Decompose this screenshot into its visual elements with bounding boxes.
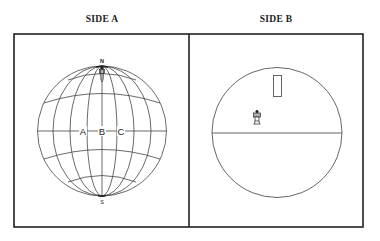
point-b-label: B (99, 126, 105, 137)
person-figure-side-b-icon (254, 110, 261, 124)
frame (14, 34, 363, 227)
south-pole-label: S (100, 199, 104, 205)
south-pole-marker (98, 196, 106, 197)
point-c-label: C (118, 126, 125, 137)
north-pole-label: N (100, 58, 104, 64)
north-pole-marker (96, 66, 108, 67)
side-b-circle (212, 68, 342, 198)
diagram-canvas: A B C N S (0, 0, 380, 241)
side-b-rectangle (274, 76, 282, 97)
side-b-diagram (212, 68, 342, 198)
point-a-label: A (80, 126, 87, 137)
